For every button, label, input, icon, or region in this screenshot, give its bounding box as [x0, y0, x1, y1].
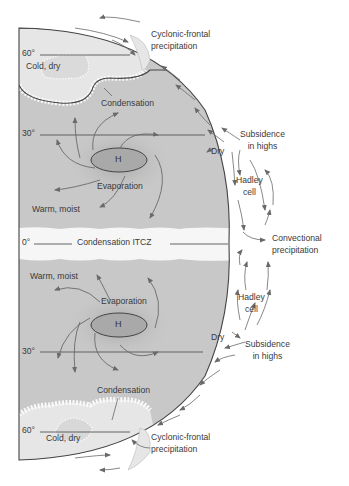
label-evaporation-north: Evaporation: [97, 181, 143, 193]
label-warm-moist-south: Warm, moist: [30, 271, 78, 283]
label-cold-dry-north: Cold, dry: [26, 61, 60, 73]
latitude-30-north: 30°: [22, 128, 35, 140]
label-cyclonic-frontal-south: Cyclonic-frontal precipitation: [151, 432, 210, 455]
label-subsidence-north: Subsidence in highs: [240, 129, 285, 152]
label-hadley-cell-south: Hadley cell: [238, 292, 265, 315]
high-pressure-label-north: H: [115, 154, 122, 164]
label-line: Hadley: [236, 175, 263, 187]
high-pressure-label-south: H: [115, 319, 122, 329]
label-line: precipitation: [151, 444, 210, 456]
label-line: in highs: [245, 351, 290, 363]
label-line: cell: [238, 304, 265, 316]
label-cold-dry-south: Cold, dry: [46, 433, 80, 445]
label-line: Subsidence: [240, 129, 285, 141]
label-line: precipitation: [151, 41, 210, 53]
label-hadley-cell-north: Hadley cell: [236, 175, 263, 198]
label-itcz: Condensation ITCZ: [77, 237, 152, 249]
label-line: in highs: [240, 141, 285, 153]
label-dry-north: Dry: [211, 146, 224, 158]
label-evaporation-south: Evaporation: [101, 296, 147, 308]
label-condensation-south: Condensation: [97, 385, 150, 397]
label-warm-moist-north: Warm, moist: [32, 204, 80, 216]
label-line: Hadley: [238, 292, 265, 304]
label-condensation-north: Condensation: [101, 98, 154, 110]
label-line: Convectional: [272, 233, 322, 245]
circulation-diagram: Cyclonic-frontal precipitation 60° Cold,…: [0, 0, 349, 486]
latitude-30-south: 30°: [22, 346, 35, 358]
label-line: Cyclonic-frontal: [151, 432, 210, 444]
label-line: Cyclonic-frontal: [151, 29, 210, 41]
label-line: cell: [236, 187, 263, 199]
latitude-60-north: 60°: [22, 48, 35, 60]
latitude-equator: 0°: [22, 237, 30, 249]
label-line: precipitation: [272, 245, 322, 257]
label-dry-south: Dry: [211, 332, 224, 344]
latitude-60-south: 60°: [22, 425, 35, 437]
label-subsidence-south: Subsidence in highs: [245, 339, 290, 362]
label-convectional-precipitation: Convectional precipitation: [272, 233, 322, 256]
label-line: Subsidence: [245, 339, 290, 351]
label-cyclonic-frontal-north: Cyclonic-frontal precipitation: [151, 29, 210, 52]
